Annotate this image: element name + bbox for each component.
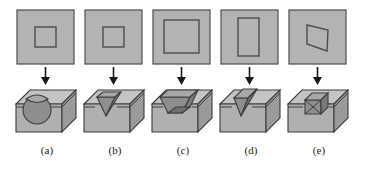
figure-column-e: (e) xyxy=(285,0,353,170)
block-e xyxy=(285,86,353,142)
arrow-d xyxy=(217,66,285,88)
arrow-e xyxy=(285,66,353,88)
plate-outline-c xyxy=(153,10,210,64)
arrow-head-e xyxy=(313,77,322,85)
arrow-a xyxy=(13,66,81,88)
caption-a: (a) xyxy=(13,143,81,157)
plate-outline-e xyxy=(289,10,346,64)
block-c xyxy=(149,86,217,142)
caption-c: (c) xyxy=(149,143,217,157)
caption-e: (e) xyxy=(285,143,353,157)
figure-column-b: (b) xyxy=(81,0,149,170)
arrow-c xyxy=(149,66,217,88)
top-view-e xyxy=(285,8,353,66)
caption-b: (b) xyxy=(81,143,149,157)
arrow-b xyxy=(81,66,149,88)
top-view-b xyxy=(81,8,149,66)
block-b xyxy=(81,86,149,142)
plate-outline-b xyxy=(85,10,142,64)
figure-column-a: (a) xyxy=(13,0,81,170)
caption-d: (d) xyxy=(217,143,285,157)
block-d xyxy=(217,86,285,142)
arrow-head-a xyxy=(41,77,50,85)
top-view-a xyxy=(13,8,81,66)
top-view-c xyxy=(149,8,217,66)
arrow-head-d xyxy=(245,77,254,85)
arrow-head-b xyxy=(109,77,118,85)
figure-column-d: (d) xyxy=(217,0,285,170)
block-a xyxy=(13,86,81,142)
plate-outline-a xyxy=(17,10,74,64)
figure-root: (a) xyxy=(0,0,378,170)
arrow-head-c xyxy=(177,77,186,85)
figure-column-c: (c) xyxy=(149,0,217,170)
top-view-d xyxy=(217,8,285,66)
